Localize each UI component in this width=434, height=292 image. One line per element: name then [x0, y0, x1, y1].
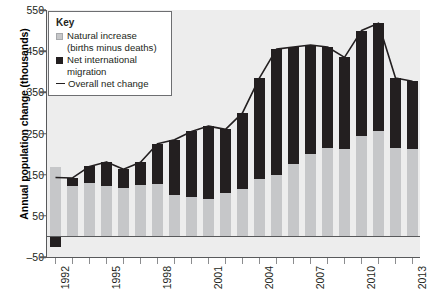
y-axis-tick-label: 450 [0, 45, 44, 57]
bar-segment-natural-increase [169, 195, 179, 236]
y-axis-tick-label: 250 [0, 128, 44, 140]
legend-label-natural-increase: Natural increase (births minus deaths) [67, 30, 165, 53]
chart-root: Annual population change (thousands) –50… [0, 0, 434, 292]
bar-2007 [305, 10, 315, 257]
bar-segment-natural-increase [407, 149, 417, 236]
bar-segment-net-migration [135, 162, 145, 185]
bar-segment-natural-increase [373, 131, 383, 236]
x-axis-tick-label: 2007 [314, 266, 326, 289]
x-axis-tick-mark [327, 258, 328, 264]
bar-segment-net-migration [50, 236, 60, 246]
bar-segment-natural-increase [356, 136, 366, 237]
legend-title: Key [56, 17, 165, 28]
bar-segment-net-migration [356, 31, 366, 136]
bar-segment-natural-increase [50, 167, 60, 236]
x-axis-tick-mark [106, 258, 107, 264]
bar-segment-net-migration [339, 57, 349, 148]
x-axis-line [46, 257, 420, 259]
bar-segment-net-migration [271, 49, 281, 175]
legend-item-natural-increase: Natural increase (births minus deaths) [56, 30, 165, 53]
bar-segment-natural-increase [390, 148, 400, 237]
legend-label-net-migration: Net international migration [67, 54, 165, 77]
bar-2008 [322, 10, 332, 257]
bar-2005 [271, 10, 281, 257]
y-axis-tick-label: –50 [0, 251, 44, 263]
x-axis-tick-mark [378, 258, 379, 264]
bar-2011 [373, 10, 383, 257]
x-axis-tick-label: 1995 [110, 266, 122, 289]
bar-segment-natural-increase [271, 175, 281, 237]
bar-segment-net-migration [390, 78, 400, 148]
bar-2000 [186, 10, 196, 257]
bar-segment-natural-increase [237, 189, 247, 236]
y-axis-tick-label: 150 [0, 169, 44, 181]
y-axis-tick-label: 550 [0, 4, 44, 16]
bar-segment-net-migration [220, 129, 230, 193]
x-axis-tick-mark [310, 258, 311, 264]
bar-segment-natural-increase [288, 164, 298, 236]
bar-segment-net-migration [305, 45, 315, 154]
bar-segment-net-migration [322, 47, 332, 148]
x-axis-tick-mark [191, 258, 192, 264]
x-axis-tick-mark [55, 258, 56, 264]
bar-segment-net-migration [203, 126, 213, 199]
bar-segment-net-migration [67, 178, 77, 186]
x-axis-tick-mark [242, 258, 243, 264]
y-axis-tick-label: 350 [0, 86, 44, 98]
x-axis-tick-mark [157, 258, 158, 264]
bar-2001 [203, 10, 213, 257]
bar-segment-net-migration [186, 131, 196, 197]
bar-2006 [288, 10, 298, 257]
bar-2009 [339, 10, 349, 257]
x-axis-tick-mark [89, 258, 90, 264]
y-axis-title: Annual population change (thousands) [18, 4, 30, 244]
bar-segment-natural-increase [186, 197, 196, 236]
bar-segment-net-migration [407, 81, 417, 149]
bar-segment-net-migration [169, 140, 179, 196]
x-axis-tick-mark [72, 258, 73, 264]
x-axis-tick-mark [225, 258, 226, 264]
x-axis-tick-label: 1998 [161, 266, 173, 289]
x-axis-tick-mark [344, 258, 345, 264]
bar-segment-natural-increase [339, 149, 349, 237]
legend-box: Key Natural increase (births minus death… [48, 11, 172, 96]
legend-item-net-migration: Net international migration [56, 54, 165, 77]
bar-segment-natural-increase [152, 184, 162, 237]
bar-segment-net-migration [237, 113, 247, 189]
x-axis-tick-label: 2010 [365, 266, 377, 289]
x-axis-tick-label: 2013 [416, 266, 428, 289]
y-axis-tick-label: 50 [0, 210, 44, 222]
bar-segment-natural-increase [101, 186, 111, 237]
legend-item-overall-net-change: Overall net change [56, 78, 165, 89]
x-axis-tick-mark [123, 258, 124, 264]
bar-2013 [407, 10, 417, 257]
bar-segment-natural-increase [84, 183, 94, 237]
legend-swatch-overall-net-change-icon [56, 83, 65, 84]
x-axis-tick-mark [361, 258, 362, 264]
legend-swatch-natural-increase-icon [56, 33, 63, 40]
bar-segment-net-migration [254, 78, 264, 179]
x-axis-tick-mark [140, 258, 141, 264]
x-axis-tick-mark [208, 258, 209, 264]
bar-2003 [237, 10, 247, 257]
x-axis-tick-mark [259, 258, 260, 264]
bar-segment-natural-increase [135, 185, 145, 236]
x-axis-tick-label: 2001 [212, 266, 224, 289]
bar-segment-natural-increase [220, 193, 230, 236]
bar-segment-net-migration [101, 162, 111, 186]
x-axis-tick-mark [293, 258, 294, 264]
x-axis-tick-mark [174, 258, 175, 264]
bar-2004 [254, 10, 264, 257]
bar-segment-natural-increase [67, 186, 77, 236]
legend-swatch-net-migration-icon [56, 57, 63, 64]
bar-segment-natural-increase [203, 199, 213, 236]
bar-segment-natural-increase [322, 148, 332, 237]
bar-segment-net-migration [288, 47, 298, 164]
x-axis-tick-mark [412, 258, 413, 264]
x-axis-tick-label: 1992 [59, 266, 71, 289]
bar-segment-net-migration [84, 166, 94, 182]
legend-label-overall-net-change: Overall net change [68, 78, 165, 89]
bar-segment-net-migration [373, 23, 383, 131]
bar-segment-net-migration [152, 144, 162, 184]
x-axis-tick-label: 2004 [263, 266, 275, 289]
